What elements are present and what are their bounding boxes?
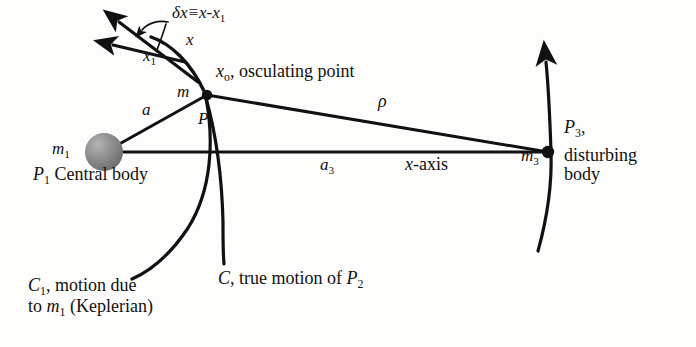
c1-keplerian-caption: C1, motion dueto m1 (Keplerian)	[28, 276, 153, 319]
point-p3-label: P3,	[564, 118, 585, 139]
vector-x-label: x	[186, 31, 194, 49]
delta-x-label: δx≡x-x1	[172, 4, 225, 24]
mass-m3-label: m3	[521, 147, 539, 167]
disturbing-body-dot	[542, 146, 554, 158]
delta-x-leader-line	[157, 24, 166, 50]
osculating-point-label: xo, osculating point	[216, 62, 354, 83]
a3-distance-label: a3	[320, 156, 334, 176]
central-body-caption: P1 Central body	[33, 165, 148, 186]
c-true-motion-caption: C, true motion of P2	[218, 269, 363, 290]
mass-m1-label: m1	[52, 140, 70, 160]
disturbing-body-caption: disturbingbody	[564, 146, 637, 184]
point-p2-label: P2	[198, 110, 214, 130]
semimajor-axis-label: a	[142, 101, 151, 119]
osculating-orbit-diagram: δx≡x-x1 x x1 xo, osculating point m a P2…	[0, 0, 696, 347]
mass-m-label: m	[177, 83, 189, 101]
osculating-point-dot	[202, 90, 212, 100]
vector-x1-label: x1	[143, 47, 156, 67]
x-axis-label: x-axis	[405, 155, 448, 174]
rho-label: ρ	[378, 92, 387, 111]
